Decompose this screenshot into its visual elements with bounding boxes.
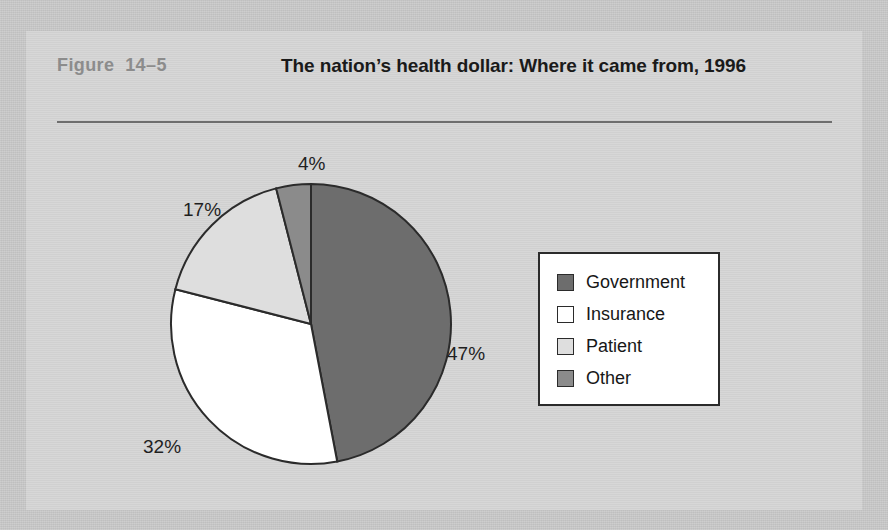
figure-number-label: Figure 14–5 — [57, 55, 167, 76]
chart-legend: Government Insurance Patient Other — [538, 252, 720, 406]
pie-value-label-government: 47% — [447, 343, 485, 365]
pie-chart-svg — [166, 179, 456, 469]
pie-value-label-insurance: 32% — [143, 436, 181, 458]
figure-title: The nation’s health dollar: Where it cam… — [281, 53, 761, 78]
title-divider-rule — [57, 121, 832, 123]
legend-swatch-icon-patient — [557, 338, 574, 355]
legend-swatch-icon-government — [557, 274, 574, 291]
page-background: Figure 14–5 The nation’s health dollar: … — [0, 0, 888, 530]
legend-label-insurance: Insurance — [586, 304, 665, 325]
legend-swatch-icon-other — [557, 370, 574, 387]
legend-item-other[interactable]: Other — [557, 362, 718, 394]
legend-item-government[interactable]: Government — [557, 266, 718, 298]
legend-swatch-icon-insurance — [557, 306, 574, 323]
pie-chart: 47% 32% 17% 4% Government Insurance Pati… — [26, 131, 862, 510]
pie-slice-government[interactable] — [311, 184, 451, 462]
legend-label-patient: Patient — [586, 336, 642, 357]
legend-item-patient[interactable]: Patient — [557, 330, 718, 362]
pie-value-label-other: 4% — [298, 153, 325, 175]
legend-label-other: Other — [586, 368, 631, 389]
legend-item-insurance[interactable]: Insurance — [557, 298, 718, 330]
legend-label-government: Government — [586, 272, 685, 293]
pie-value-label-patient: 17% — [183, 199, 221, 221]
figure-panel: Figure 14–5 The nation’s health dollar: … — [26, 31, 862, 510]
